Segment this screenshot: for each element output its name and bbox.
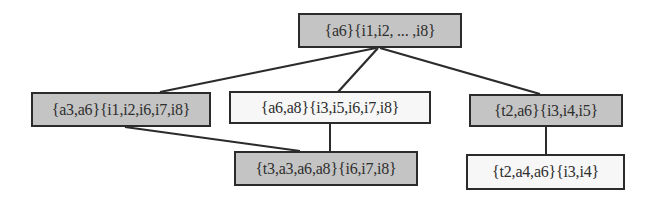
node-t2-a4-a6: {t2,a4,a6}{i3,i4} <box>466 154 625 190</box>
node-root: {a6}{i1,i2, ... ,i8} <box>298 13 462 48</box>
node-t2-a6: {t2,a6}{i3,i4,i5} <box>469 94 623 127</box>
node-label: {a6,a8}{i3,i5,i6,i7,i8} <box>261 99 400 117</box>
node-label: {t3,a3,a6,a8}{i6,i7,i8} <box>255 160 396 178</box>
node-label: {t2,a4,a6}{i3,i4} <box>492 163 599 181</box>
node-a3-a6: {a3,a6}{i1,i2,i6,i7,i8} <box>31 92 211 127</box>
diagram-canvas: {a6}{i1,i2, ... ,i8} {a3,a6}{i1,i2,i6,i7… <box>0 0 658 200</box>
node-a6-a8: {a6,a8}{i3,i5,i6,i7,i8} <box>229 91 431 124</box>
edge-a3a6-to-t3a3a6a8 <box>125 127 300 151</box>
node-label: {a3,a6}{i1,i2,i6,i7,i8} <box>52 101 191 119</box>
node-t3-a3-a6-a8: {t3,a3,a6,a8}{i6,i7,i8} <box>234 151 418 186</box>
node-label: {t2,a6}{i3,i4,i5} <box>494 102 598 120</box>
edge-root-to-t2a6 <box>380 48 540 94</box>
node-label: {a6}{i1,i2, ... ,i8} <box>324 22 435 40</box>
